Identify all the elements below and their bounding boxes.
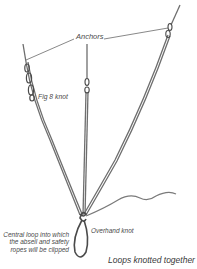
overhand-knot-label: Overhand knot xyxy=(91,227,134,234)
center-anchor-carabiner-icon xyxy=(85,79,89,94)
right-anchor-carabiner-icon xyxy=(166,24,172,38)
fig8-knot-icon xyxy=(25,64,34,101)
central-loop-label: Central loop into which the abseil and s… xyxy=(2,231,69,253)
anchors-label: Anchors xyxy=(76,33,104,42)
center-anchor-rope xyxy=(83,44,88,215)
rope-anchor-diagram: Anchors Fig 8 knot Overhand knot Central… xyxy=(0,0,197,269)
central-loop-icon xyxy=(74,220,87,257)
left-anchor-rope xyxy=(23,44,82,215)
loose-rope-tail xyxy=(86,192,176,216)
fig8-knot-label: Fig 8 knot xyxy=(38,93,68,101)
loops-knotted-caption: Loops knotted together xyxy=(108,256,195,266)
